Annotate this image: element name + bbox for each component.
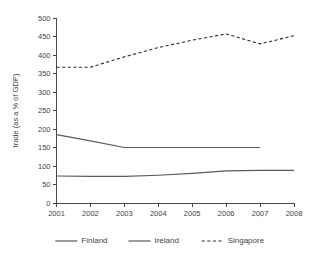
y-tick-label: 250 bbox=[38, 106, 51, 115]
y-tick-label: 350 bbox=[38, 69, 51, 78]
x-tick-label: 2004 bbox=[150, 209, 167, 218]
x-tick-label: 2003 bbox=[116, 209, 133, 218]
legend-label-singapore: Singapore bbox=[228, 236, 265, 245]
x-tick-label: 2007 bbox=[252, 209, 269, 218]
y-tick-label: 200 bbox=[38, 125, 51, 134]
x-tick-label: 2005 bbox=[184, 209, 201, 218]
y-tick-label: 0 bbox=[46, 199, 50, 208]
legend-label-ireland: Ireland bbox=[154, 236, 178, 245]
y-tick-label: 50 bbox=[42, 180, 50, 189]
x-tick-label: 2008 bbox=[286, 209, 303, 218]
y-tick-label: 150 bbox=[38, 143, 51, 152]
x-tick-label: 2006 bbox=[218, 209, 235, 218]
series-line-singapore bbox=[57, 34, 295, 67]
legend-label-finland: Finland bbox=[81, 236, 107, 245]
y-tick-label: 500 bbox=[38, 14, 51, 23]
chart-legend: FinlandIrelandSingapore bbox=[55, 236, 264, 245]
trade-share-line-chart: 050100150200250300350400450500 200120022… bbox=[0, 0, 315, 258]
y-axis: 050100150200250300350400450500 bbox=[38, 14, 57, 208]
x-tick-label: 2001 bbox=[48, 209, 65, 218]
y-axis-title-text: trade (as a % of GDP) bbox=[11, 73, 20, 147]
series-line-finland bbox=[57, 170, 295, 176]
y-tick-label: 100 bbox=[38, 162, 51, 171]
series-lines bbox=[57, 34, 295, 176]
y-tick-label: 450 bbox=[38, 32, 51, 41]
y-axis-title: trade (as a % of GDP) bbox=[11, 73, 20, 147]
y-tick-label: 400 bbox=[38, 51, 51, 60]
series-line-ireland bbox=[57, 135, 261, 148]
y-tick-label: 300 bbox=[38, 88, 51, 97]
x-tick-label: 2002 bbox=[82, 209, 99, 218]
chart-canvas: 050100150200250300350400450500 200120022… bbox=[0, 0, 315, 258]
x-axis: 20012002200320042005200620072008 bbox=[48, 203, 302, 218]
